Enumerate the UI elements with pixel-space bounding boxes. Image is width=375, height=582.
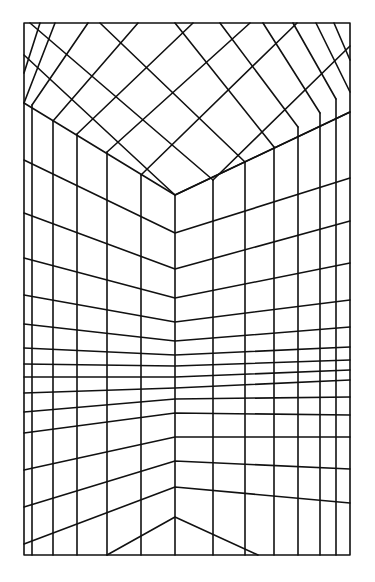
wall-horizontal-lines — [24, 103, 350, 544]
wall-horizontal-line — [24, 487, 350, 544]
wall-horizontal-line — [24, 360, 350, 366]
ceiling-grid-line — [24, 23, 55, 103]
floor-v-line — [107, 517, 258, 555]
ceiling-grid-line — [53, 23, 138, 121]
perspective-grid-drawing — [0, 0, 375, 582]
ceiling-grid — [24, 23, 350, 195]
ceiling-grid-line — [32, 23, 88, 105]
ceiling-grid-line — [213, 46, 350, 180]
wall-horizontal-line — [24, 103, 350, 195]
wall-horizontal-line — [24, 380, 350, 393]
wall-horizontal-line — [24, 295, 350, 322]
wall-horizontal-line — [24, 324, 350, 341]
wall-vertical-lines — [32, 99, 336, 555]
wall-horizontal-line — [24, 347, 350, 355]
frame-border — [24, 23, 350, 555]
ceiling-grid-line — [293, 23, 336, 99]
drawing-frame — [24, 23, 350, 555]
floor-v-line — [107, 517, 258, 555]
wall-horizontal-line — [24, 437, 350, 470]
ceiling-grid-line — [24, 55, 175, 195]
ceiling-grid-line — [220, 23, 298, 127]
wall-horizontal-line — [24, 413, 350, 433]
wall-horizontal-line — [24, 160, 350, 233]
ceiling-grid-line — [316, 23, 350, 92]
wall-horizontal-line — [24, 213, 350, 269]
ceiling-grid-line — [100, 23, 245, 162]
ceiling-grid-line — [30, 23, 213, 180]
ceiling-grid-line — [107, 23, 250, 152]
wall-horizontal-line — [24, 370, 350, 377]
wall-horizontal-line — [24, 461, 350, 507]
ceiling-grid-line — [263, 23, 320, 113]
wall-horizontal-line — [24, 258, 350, 298]
wall-horizontal-line — [24, 397, 350, 412]
